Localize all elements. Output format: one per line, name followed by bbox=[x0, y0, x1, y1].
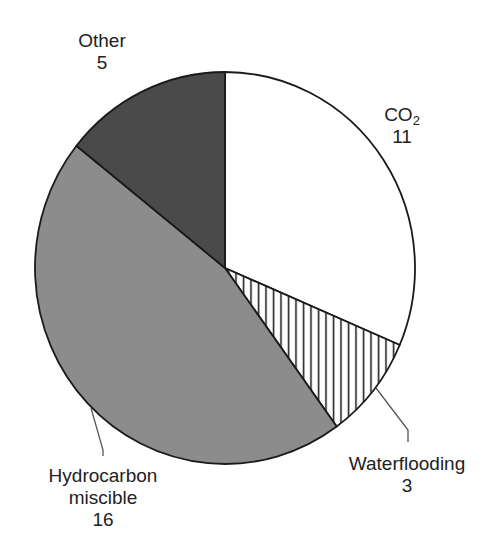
label-other-value: 5 bbox=[62, 52, 142, 74]
label-co2: CO2 11 bbox=[372, 104, 432, 148]
label-hydrocarbon-name-1: Hydrocarbon bbox=[33, 465, 173, 487]
label-hydrocarbon-name-2: miscible bbox=[33, 487, 173, 509]
pie-slices bbox=[35, 72, 415, 464]
label-waterflooding-name: Waterflooding bbox=[332, 453, 482, 475]
label-hydrocarbon-value: 16 bbox=[33, 509, 173, 531]
label-other-name: Other bbox=[62, 30, 142, 52]
label-co2-name: CO2 bbox=[372, 104, 432, 126]
label-hydrocarbon: Hydrocarbon miscible 16 bbox=[33, 465, 173, 531]
leader-line-waterflooding bbox=[376, 388, 408, 442]
label-other: Other 5 bbox=[62, 30, 142, 74]
label-waterflooding-value: 3 bbox=[332, 475, 482, 497]
label-co2-value: 11 bbox=[372, 126, 432, 148]
label-waterflooding: Waterflooding 3 bbox=[332, 453, 482, 497]
